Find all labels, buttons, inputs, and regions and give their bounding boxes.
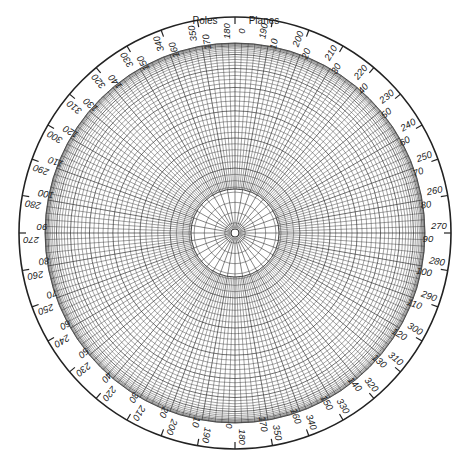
scale-tick [369,68,373,73]
inner-radial [236,238,243,276]
grid-radial [244,47,274,190]
plane-label: 140 [346,374,365,394]
scale-tick [70,94,75,98]
grid-radial [256,65,325,194]
pole-label: 250 [36,301,56,317]
grid-radial [56,168,193,218]
inner-radial [240,234,278,241]
pole-label: 330 [335,396,353,416]
scale-tick [416,338,422,342]
polar-grid [45,43,425,423]
pole-label: 280 [23,198,42,212]
pole-label: 280 [427,254,446,268]
plane-label: 60 [57,318,72,333]
plane-label: 60 [397,133,412,148]
inner-radial [227,190,234,228]
scale-tick [395,367,400,371]
pole-label: 310 [386,349,406,368]
scale-tick [32,159,39,161]
inner-radial [240,225,278,232]
scale-tick [431,304,438,306]
pole-label: 310 [64,98,84,117]
plane-label: 90 [423,233,434,244]
plane-label: 130 [80,95,100,114]
grid-radial [56,248,193,298]
grid-radial [276,168,413,218]
grid-radial [278,242,421,272]
scale-tick [48,125,54,129]
grid-radial [49,193,192,223]
plane-label: 50 [378,105,394,121]
grid-radial [67,254,196,323]
plane-label: 150 [134,53,152,73]
plane-label: 80 [37,255,50,268]
grid-radial [278,193,421,223]
inner-radial [192,225,230,232]
grid-radial [250,54,300,191]
scale-tick [161,429,163,436]
plane-label: 10 [190,416,203,429]
pole-label: 240 [52,332,73,350]
pole-label: 240 [397,116,418,134]
scale-tick [22,269,29,270]
pole-label: 300 [44,128,64,146]
plane-label: 70 [44,287,58,301]
plane-label: 90 [36,222,47,233]
grid-radial [195,276,225,419]
pole-label: 180 [237,429,248,446]
polar-net-diagram: 1901020020210302204023050240602507026080… [0,0,463,469]
scale-tick [161,30,163,37]
plane-label: 80 [420,198,433,211]
pole-label: 350 [271,424,285,442]
poles-header: Poles [192,15,217,26]
grid-radial [170,274,220,411]
pole-label: 300 [406,320,426,338]
scale-tick [306,30,308,37]
scale-tick [22,195,29,196]
pole-label: 210 [130,403,148,424]
pole-label: 320 [89,71,108,91]
scale-tick [441,269,448,270]
grid-radial [256,272,325,401]
plane-label: 70 [411,165,425,179]
scale-tick [96,68,100,73]
grid-radial [67,144,196,213]
plane-label: 50 [76,345,92,361]
pole-label: 210 [321,42,339,63]
plane-label: 10 [267,37,280,50]
grid-radial [195,47,225,190]
grid-radial [146,65,215,194]
center-hole [231,229,239,237]
scale-tick [431,159,438,161]
grid-radial [170,54,220,191]
pole-label: 250 [414,148,434,164]
plane-label: 140 [105,72,124,92]
scale-tick [369,393,373,398]
pole-label: 230 [73,360,94,380]
pole-label: 180 [221,23,232,40]
scale-tick [127,414,131,420]
pole-label: 270 [430,220,448,231]
pole-label: 270 [22,235,40,246]
plane-label: 150 [318,393,336,413]
scale-tick [441,195,448,196]
grid-radial [274,144,403,213]
inner-radial [236,190,243,228]
plane-label: 130 [370,352,390,371]
planes-header: Planes [249,15,280,26]
pole-label: 220 [100,384,120,405]
inner-radial [192,234,230,241]
plane-label: 0 [236,28,247,34]
pole-label: 200 [290,29,306,49]
plane-label: 0 [224,423,235,429]
plane-label: 170 [257,415,271,433]
grid-radial [146,272,215,401]
inner-radial [227,238,234,276]
pole-label: 190 [200,426,214,444]
scale-tick [96,393,100,398]
pole-label: 200 [164,417,180,437]
scale-tick [197,439,198,446]
grid-radial [250,274,300,411]
grid-radial [276,248,413,298]
pole-label: 340 [150,34,166,53]
